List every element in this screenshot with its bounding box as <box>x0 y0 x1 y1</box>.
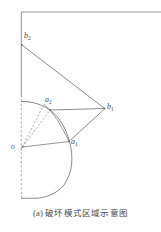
b1-point-marker <box>104 108 106 110</box>
point-label-a2-sub: 2 <box>49 99 52 105</box>
segment-b2-b1 <box>22 45 104 108</box>
figure-container: b2 b1 a2 a1 o (a) 破坏模式区域示意图 <box>0 0 161 232</box>
point-label-b1-sub: 1 <box>111 106 114 112</box>
b2-point-marker <box>21 44 23 46</box>
point-label-b2: b2 <box>24 32 31 40</box>
segment-a2-b1 <box>50 109 105 111</box>
segment-o-a2-dashed <box>23 110 51 147</box>
point-label-a1-sub: 1 <box>75 141 78 147</box>
point-label-b2-sub: 2 <box>28 35 31 41</box>
outer-failure-arc <box>36 142 72 199</box>
a2-point-marker <box>49 109 51 111</box>
segment-o-apex-dashed <box>23 104 45 147</box>
a1-point-marker <box>68 141 70 143</box>
point-label-origin: o <box>11 143 15 151</box>
figure-caption: (a) 破坏模式区域示意图 <box>0 206 161 218</box>
point-label-a2: a2 <box>45 96 52 104</box>
segment-o-a1 <box>23 142 70 148</box>
origin-point-marker <box>21 146 23 148</box>
point-label-b1: b1 <box>107 103 114 111</box>
point-label-a1: a1 <box>71 138 78 146</box>
